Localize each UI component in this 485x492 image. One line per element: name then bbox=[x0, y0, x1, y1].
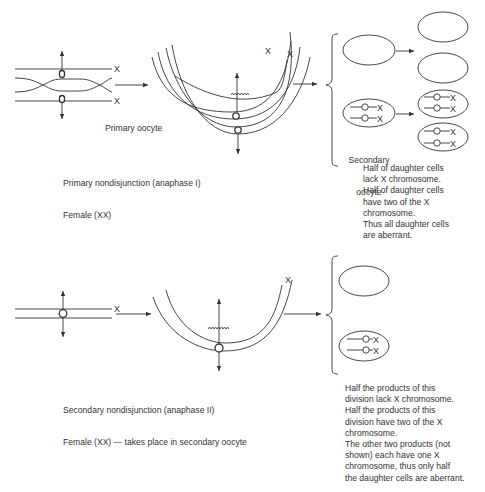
x-label-prod-1: X bbox=[373, 335, 379, 345]
secondary-note-line: shown) each have one X bbox=[345, 450, 464, 461]
secondary-caption-line: Secondary nondisjunction (anaphase II) bbox=[63, 405, 247, 416]
secondary-caption-line: Female (XX) — takes place in secondary o… bbox=[63, 437, 247, 448]
x-label-prod-2: X bbox=[373, 346, 379, 356]
primary-caption-line: Primary nondisjunction (anaphase I) bbox=[63, 178, 201, 189]
x-label-sec-strand: X bbox=[114, 304, 120, 314]
daughter-xx-2 bbox=[418, 123, 468, 151]
primary-caption-line: Female (XX) bbox=[63, 210, 201, 221]
daughter-empty-1 bbox=[418, 12, 468, 42]
secondary-oocyte-empty bbox=[343, 35, 395, 65]
secondary-note-line: the daughter cells are aberrant. bbox=[345, 473, 464, 484]
primary-note-line: Thus all daughter cells bbox=[363, 219, 449, 230]
secondary-note-line: chromosome, thus only half bbox=[345, 461, 464, 472]
x-label-d1-2: X bbox=[450, 104, 456, 114]
primary-note: Half of daughter cells lack X chromosome… bbox=[363, 163, 449, 241]
product-xx bbox=[339, 331, 389, 361]
x-label-sec-1: X bbox=[377, 103, 383, 113]
primary-note-line: Half of daughter cells bbox=[363, 163, 449, 174]
x-label-lower: X bbox=[114, 96, 120, 106]
primary-note-line: are aberrant. bbox=[363, 230, 449, 241]
x-label-oocyte-1: X bbox=[265, 46, 271, 56]
brace-2 bbox=[326, 256, 338, 374]
secondary-note-line: chromosome. bbox=[345, 428, 464, 439]
squiggle-2 bbox=[208, 327, 229, 329]
secondary-note-line: division lack X chromosome. bbox=[345, 394, 464, 405]
primary-note-line: chromosome. bbox=[363, 208, 449, 219]
centromere-lower bbox=[60, 96, 65, 103]
x-label-upper: X bbox=[114, 64, 120, 74]
product-empty bbox=[339, 266, 389, 296]
brace-1 bbox=[326, 34, 338, 166]
secondary-note-line: Half the products of this bbox=[345, 405, 464, 416]
secondary-note-line: division have two of the X bbox=[345, 417, 464, 428]
x-label-d1-1: X bbox=[450, 93, 456, 103]
x-label-sec-2: X bbox=[377, 114, 383, 124]
secondary-oocyte-xx bbox=[343, 99, 395, 127]
centromere-upper bbox=[60, 71, 65, 78]
secondary-note: Half the products of this division lack … bbox=[345, 383, 464, 484]
secondary-caption: Secondary nondisjunction (anaphase II) F… bbox=[63, 384, 247, 458]
secondary-chromosome bbox=[15, 291, 112, 337]
centromere-sec-oocyte bbox=[215, 344, 223, 352]
secondary-note-line: The other two products (not bbox=[345, 439, 464, 450]
x-label-oocyte-2: X bbox=[287, 49, 293, 59]
squiggle bbox=[231, 93, 249, 95]
daughter-xx-1 bbox=[418, 90, 468, 118]
primary-note-line: Half of daughter cells bbox=[363, 185, 449, 196]
x-label-d2-1: X bbox=[450, 127, 456, 137]
x-label-sec-oocyte: X bbox=[285, 275, 291, 285]
centromere-lower-oocyte bbox=[235, 127, 241, 133]
primary-note-line: lack X chromosome. bbox=[363, 174, 449, 185]
centromere-upper-oocyte bbox=[233, 113, 239, 119]
daughter-empty-2 bbox=[418, 53, 468, 83]
primary-oocyte-label: Primary oocyte bbox=[105, 123, 162, 134]
primary-tetrad bbox=[15, 51, 112, 119]
centromere-sec bbox=[59, 310, 67, 318]
x-label-d2-2: X bbox=[450, 139, 456, 149]
primary-note-line: have two of the X bbox=[363, 197, 449, 208]
secondary-oocyte-chromosomes bbox=[153, 280, 292, 371]
secondary-note-line: Half the products of this bbox=[345, 383, 464, 394]
primary-caption: Primary nondisjunction (anaphase I) Fema… bbox=[63, 157, 201, 231]
